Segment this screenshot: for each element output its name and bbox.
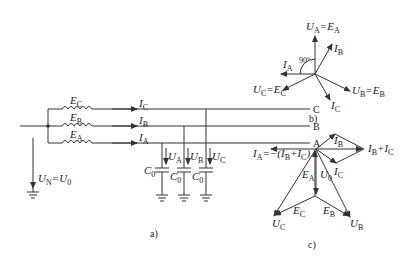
bus-label-a: A (313, 138, 321, 149)
phase-a-branch (48, 141, 310, 144)
voltage-label-uc: UC (212, 150, 225, 165)
current-label-ia: IA (138, 131, 149, 146)
angle-label: 90° (299, 56, 310, 65)
voltage-label-ub: UB (190, 150, 203, 165)
voltage-label-ua: UA (168, 150, 182, 165)
capacitor-leg-c (199, 109, 213, 201)
label-ib-plus-ic: IB+IC (367, 142, 393, 157)
capacitor-leg-a (155, 143, 169, 201)
label-ua-ea: UA=EA (306, 20, 340, 35)
label-ub-eb: UB=EB (352, 84, 385, 99)
neutral-voltage-label: UN=U0 (38, 172, 71, 187)
parallelogram-bottom (336, 149, 364, 163)
phasor-ib (315, 44, 332, 74)
current-label-ic: IC (138, 97, 148, 112)
phase-b-branch (48, 124, 310, 127)
phase-c-branch (48, 107, 310, 110)
phasor-uc (283, 74, 315, 90)
panel-c-phasors: IA=−(IB+IC) IB IB+IC IC EA U0 EC EB UC U… (252, 134, 393, 251)
label-uc-ec: UC=EC (253, 83, 286, 98)
current-label-ib: IB (138, 114, 148, 129)
label-ea: EA (301, 168, 315, 183)
caption-c: c) (308, 239, 316, 251)
label-ic-c: IC (333, 165, 343, 180)
caption-a: a) (150, 228, 158, 240)
label-ec: EC (292, 204, 305, 219)
label-ic: IC (330, 99, 340, 114)
label-u0: U0 (320, 168, 332, 183)
label-ib: IB (333, 42, 343, 57)
capacitor-label-1: C0 (144, 164, 155, 179)
label-ia: IA (282, 58, 293, 73)
figure-canvas: EC EB EA IC IB IA C B A (0, 0, 406, 262)
label-uc-c: UC (272, 217, 285, 232)
label-ib-c: IB (333, 134, 343, 149)
label-ub-c: UB (350, 217, 363, 232)
caption-b: b) (309, 113, 317, 125)
